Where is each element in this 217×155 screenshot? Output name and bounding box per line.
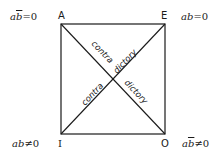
corner-label-a: A — [58, 11, 65, 21]
formula-i: ab≠0 — [12, 139, 39, 149]
diagonal-ao-label-contra: contra — [90, 39, 116, 66]
formula-a: ab=0 — [10, 12, 37, 22]
formula-i-pre: ab — [12, 138, 24, 149]
diagonal-ao-label-dictory: dictory — [123, 78, 151, 107]
diagonal-ie-label-contra: contra — [79, 81, 105, 108]
diagonal-ie-label-dictory: dictory — [111, 46, 139, 75]
corner-label-o: O — [161, 139, 169, 149]
formula-e-pre: ab — [181, 11, 193, 22]
formula-a-post: =0 — [22, 11, 37, 22]
square-lines: contra dictory contra dictory — [0, 0, 217, 155]
formula-e-post: =0 — [193, 11, 208, 22]
formula-i-post: ≠0 — [24, 138, 39, 149]
formula-e: ab=0 — [181, 12, 208, 22]
square-of-opposition-diagram: contra dictory contra dictory A E I O ab… — [0, 0, 217, 155]
formula-o: ab≠0 — [182, 139, 209, 149]
formula-o-post: ≠0 — [194, 138, 209, 149]
corner-label-i: I — [58, 139, 62, 149]
corner-label-e: E — [161, 11, 167, 21]
